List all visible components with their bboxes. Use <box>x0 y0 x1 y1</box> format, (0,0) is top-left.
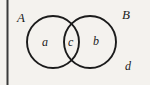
region-a-label: a <box>42 36 48 48</box>
venn-diagram-figure: A B a c b d <box>0 0 150 85</box>
set-a-label: A <box>17 11 25 24</box>
region-b-label: b <box>93 35 99 47</box>
set-b-label: B <box>122 8 130 21</box>
region-d-label: d <box>125 60 131 72</box>
region-c-label: c <box>68 36 73 48</box>
